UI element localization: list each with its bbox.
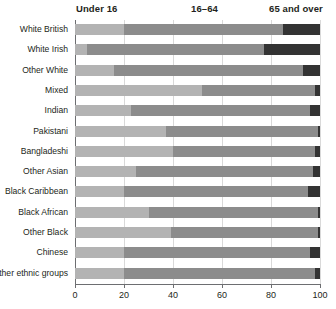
bar-track: [75, 65, 320, 76]
plot-area: [75, 20, 320, 284]
bar-segment: [75, 65, 114, 76]
bar-segment: [124, 247, 310, 258]
bar-row: [75, 101, 320, 121]
bar-track: [75, 166, 320, 177]
bar-row: [75, 162, 320, 182]
stacked-bar-chart: Under 16 16–64 65 and over White British…: [0, 0, 336, 309]
bar-track: [75, 247, 320, 258]
bar-segment: [75, 24, 124, 35]
category-label: Other White: [22, 65, 68, 75]
bar-segment: [114, 65, 303, 76]
bar-segment: [75, 105, 131, 116]
bar-track: [75, 146, 320, 157]
x-tick-mark: [75, 284, 76, 288]
x-tick-label: 100: [312, 290, 327, 300]
bar-segment: [75, 126, 166, 137]
bar-segment: [75, 146, 173, 157]
category-label: Black African: [18, 207, 68, 217]
bar-segment: [303, 65, 320, 76]
bar-row: [75, 40, 320, 60]
x-tick-mark: [320, 284, 321, 288]
bar-segment: [75, 186, 124, 197]
bar-segment: [315, 146, 320, 157]
bar-track: [75, 268, 320, 279]
bar-track: [75, 207, 320, 218]
category-label: Chinese: [36, 247, 68, 257]
bar-row: [75, 61, 320, 81]
bar-rows: [75, 20, 320, 284]
bar-segment: [171, 227, 318, 238]
x-tick-mark: [124, 284, 125, 288]
bar-segment: [75, 85, 202, 96]
bar-segment: [318, 207, 320, 218]
bar-segment: [166, 126, 318, 137]
bar-segment: [315, 85, 320, 96]
x-tick-label: 0: [72, 290, 77, 300]
legend-label-65-and-over: 65 and over: [269, 3, 323, 14]
category-label: Mixed: [45, 85, 68, 95]
bar-segment: [315, 268, 320, 279]
bar-row: [75, 81, 320, 101]
bar-track: [75, 186, 320, 197]
bar-segment: [318, 126, 320, 137]
bar-segment: [75, 166, 136, 177]
category-label: Other ethnic groups: [0, 268, 68, 278]
bar-segment: [318, 227, 320, 238]
x-tick-mark: [271, 284, 272, 288]
bar-segment: [87, 44, 263, 55]
bar-segment: [75, 44, 87, 55]
chart-legend-headers: Under 16 16–64 65 and over: [0, 0, 336, 20]
x-tick-label: 80: [266, 290, 276, 300]
bar-segment: [131, 105, 310, 116]
category-label: White Irish: [27, 44, 68, 54]
bar-row: [75, 122, 320, 142]
category-label: Bangladeshi: [21, 146, 68, 156]
bar-track: [75, 44, 320, 55]
bar-row: [75, 203, 320, 223]
gridline: [320, 20, 321, 284]
bar-track: [75, 85, 320, 96]
category-label: Other Asian: [23, 166, 68, 176]
x-axis-ticks: 020406080100: [75, 284, 327, 309]
category-label: Other Black: [23, 227, 68, 237]
bar-row: [75, 182, 320, 202]
bar-segment: [202, 85, 315, 96]
bar-segment: [75, 227, 171, 238]
bar-segment: [313, 166, 320, 177]
bar-segment: [173, 146, 315, 157]
bar-row: [75, 20, 320, 40]
bar-segment: [308, 186, 320, 197]
x-tick-label: 40: [168, 290, 178, 300]
category-axis-labels: White BritishWhite IrishOther WhiteMixed…: [0, 20, 72, 284]
bar-segment: [136, 166, 312, 177]
bar-track: [75, 24, 320, 35]
legend-label-16-64: 16–64: [191, 3, 218, 14]
bar-segment: [264, 44, 320, 55]
bar-row: [75, 223, 320, 243]
category-label: White British: [20, 24, 68, 34]
bar-segment: [149, 207, 318, 218]
bar-segment: [310, 105, 320, 116]
bar-row: [75, 142, 320, 162]
x-tick-mark: [173, 284, 174, 288]
bar-row: [75, 243, 320, 263]
bar-track: [75, 126, 320, 137]
bar-segment: [124, 186, 308, 197]
bar-segment: [310, 247, 320, 258]
category-label: Pakistani: [33, 126, 68, 136]
bar-segment: [124, 268, 315, 279]
legend-label-under-16: Under 16: [76, 3, 117, 14]
bar-segment: [75, 268, 124, 279]
x-tick-mark: [222, 284, 223, 288]
category-label: Indian: [45, 105, 68, 115]
bar-row: [75, 264, 320, 284]
bar-segment: [283, 24, 320, 35]
bar-segment: [75, 207, 149, 218]
bar-track: [75, 105, 320, 116]
bar-segment: [124, 24, 283, 35]
bar-track: [75, 227, 320, 238]
x-tick-label: 20: [119, 290, 129, 300]
bar-segment: [75, 247, 124, 258]
x-tick-label: 60: [217, 290, 227, 300]
category-label: Black Caribbean: [5, 186, 68, 196]
